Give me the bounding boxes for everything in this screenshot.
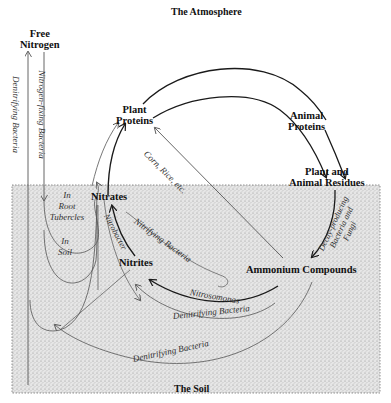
in-root-line3: Tubercles xyxy=(46,212,88,223)
plant-proteins-line1: Plant xyxy=(116,104,153,115)
residues-line2: Animal Residues xyxy=(289,177,365,188)
free-nitrogen-line1: Free xyxy=(20,28,59,39)
in-soil-line2: Soil xyxy=(55,247,75,258)
animal-proteins-line2: Proteins xyxy=(288,121,325,132)
in-root-line2: Root xyxy=(46,201,88,212)
nitrogen-fixing-label: Nitrogen-fixing Bacteria xyxy=(37,70,46,158)
nitrates-node: Nitrates xyxy=(91,191,127,202)
in-root-tubercles-label: In Root Tubercles xyxy=(46,190,88,223)
in-root-line1: In xyxy=(46,190,88,201)
nitrites-node: Nitrites xyxy=(119,257,153,268)
plant-proteins-line2: Proteins xyxy=(116,115,153,126)
in-soil-line1: In xyxy=(55,236,75,247)
ammonium-compounds-node: Ammonium Compounds xyxy=(246,264,357,275)
animal-proteins-line1: Animal xyxy=(288,110,325,121)
tubercles-to-plant-arrow xyxy=(92,123,118,186)
plant-to-residues-arc-inner xyxy=(153,97,326,177)
in-soil-label: In Soil xyxy=(55,236,75,258)
soil-label: The Soil xyxy=(174,383,209,394)
atmosphere-title: The Atmosphere xyxy=(171,6,242,17)
denitrifying-vertical-label: Denitrifying Bacteria xyxy=(11,76,20,153)
residues-node: Plant and Animal Residues xyxy=(289,166,365,188)
animal-proteins-node: Animal Proteins xyxy=(288,110,325,132)
free-nitrogen-node: Free Nitrogen xyxy=(20,28,59,50)
plant-proteins-node: Plant Proteins xyxy=(116,104,153,126)
residues-line1: Plant and xyxy=(289,166,365,177)
free-nitrogen-line2: Nitrogen xyxy=(20,39,59,50)
